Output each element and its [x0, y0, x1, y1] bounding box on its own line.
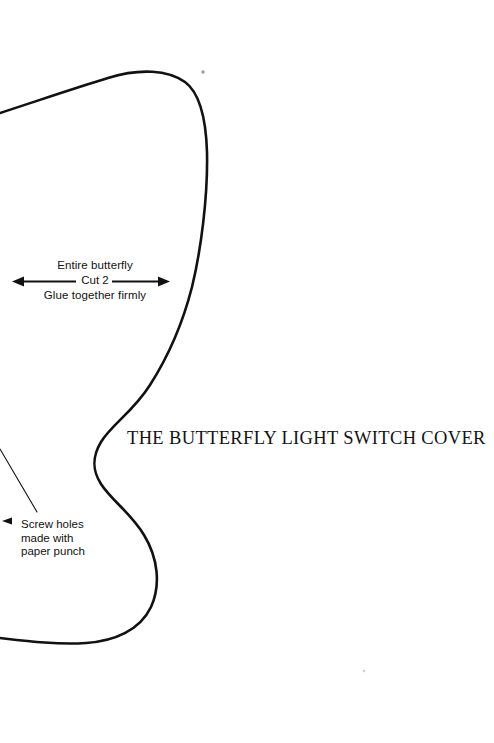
pattern-page: Entire butterfly Cut 2 Glue together fir…	[0, 0, 494, 743]
page-title: THE BUTTERFLY LIGHT SWITCH COVER	[127, 428, 486, 449]
cut-instruction-line-cut-2: Cut 2	[75, 274, 115, 288]
screw-holes-note-line-1: Screw holes	[21, 518, 85, 532]
butterfly-pattern-canvas	[0, 0, 494, 743]
cut-instruction-measure-row: Cut 2	[0, 273, 190, 289]
screw-holes-note-line-2: made with	[21, 532, 85, 546]
screw-holes-note: Screw holes made with paper punch	[21, 518, 85, 559]
screw-hole-leader-line	[0, 449, 37, 512]
screw-holes-note-line-3: paper punch	[21, 545, 85, 559]
cut-instruction-block: Entire butterfly Cut 2 Glue together fir…	[0, 259, 190, 302]
paper-speck-top-icon	[201, 70, 204, 73]
paper-speck-bottom-icon	[363, 670, 366, 673]
cut-instruction-line-glue-together: Glue together firmly	[0, 289, 190, 303]
screw-note-left-arrowhead	[2, 517, 12, 524]
cut-instruction-line-entire-butterfly: Entire butterfly	[0, 259, 190, 273]
